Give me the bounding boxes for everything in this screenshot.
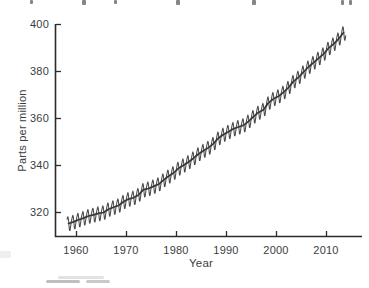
x-tick-label: 1990 [206, 244, 246, 257]
co2-concentration-chart: Parts per million 400 380 360 340 320 19… [0, 0, 369, 288]
x-tick-label: 2010 [306, 244, 346, 257]
cropped-text-fragment [46, 280, 80, 283]
x-tick-label: 1980 [156, 244, 196, 257]
x-axis-title: Year [171, 257, 231, 270]
annual-trend-line [69, 33, 344, 224]
y-tick-label: 400 [0, 18, 49, 31]
y-tick-label: 320 [0, 206, 49, 219]
y-tick-label: 380 [0, 65, 49, 78]
seasonal-co2-line [67, 27, 346, 231]
x-tick-label: 2000 [256, 244, 296, 257]
cropped-text-fragment [0, 251, 11, 258]
y-axis-title: Parts per million [16, 70, 29, 192]
textbook-page-crop: Parts per million 400 380 360 340 320 19… [0, 0, 369, 288]
x-tick-label: 1970 [106, 244, 146, 257]
cropped-text-fragment [86, 280, 110, 283]
axis-lines [56, 24, 363, 237]
x-tick-label: 1960 [56, 244, 96, 257]
y-tick-label: 340 [0, 159, 49, 172]
y-tick-label: 360 [0, 112, 49, 125]
cropped-text-fragment [58, 276, 104, 279]
